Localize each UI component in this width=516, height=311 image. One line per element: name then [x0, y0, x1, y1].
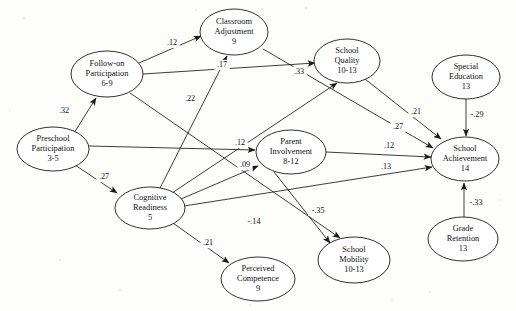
node-label-school-mobility-line1: School — [342, 245, 366, 254]
node-label-school-mobility-line3: 10-13 — [344, 265, 364, 274]
node-cognitive-readiness[interactable]: CognitiveReadiness5 — [115, 187, 185, 229]
node-label-perceived-competence-line1: Perceived — [241, 264, 275, 273]
edge-coefficient-cognitive-to-achievement: .13 — [381, 162, 391, 171]
edge-cognitive-to-parent — [181, 166, 258, 199]
node-classroom-adjustment[interactable]: ClassroomAdjustment9 — [200, 9, 268, 55]
node-label-cognitive-readiness-line2: Readiness — [133, 203, 167, 212]
node-school-achievement[interactable]: SchoolAchievement14 — [431, 137, 499, 181]
edge-coefficient-cognitive-to-perceived: .21 — [203, 238, 213, 247]
edge-coefficient-preschool-to-cognitive: .27 — [99, 172, 109, 181]
node-label-grade-retention-line3: 13 — [459, 244, 467, 253]
node-label-follow-on-participation-line1: Follow-on — [90, 59, 126, 68]
node-label-classroom-adjustment-line1: Classroom — [216, 17, 252, 26]
edge-parent-to-achievement — [326, 152, 431, 157]
node-label-cognitive-readiness-line3: 5 — [148, 213, 152, 222]
node-label-perceived-competence-line2: Competence — [237, 274, 279, 283]
edge-coefficient-schoolquality-to-achievement: .21 — [411, 107, 421, 116]
edge-cognitive-to-classroom — [160, 56, 227, 188]
node-label-parent-involvement-line3: 8-12 — [283, 157, 298, 166]
edge-coefficient-specialed-to-achievement: -.29 — [471, 110, 484, 119]
edge-coefficient-cognitive-to-classroom: .22 — [185, 94, 195, 103]
node-label-cognitive-readiness-line1: Cognitive — [133, 193, 166, 202]
node-label-preschool-participation-line3: 3-5 — [47, 154, 58, 163]
node-label-school-quality-line3: 10-13 — [337, 66, 357, 75]
node-label-preschool-participation-line2: Participation — [32, 144, 76, 153]
node-school-mobility[interactable]: SchoolMobility10-13 — [318, 237, 390, 283]
node-follow-on-participation[interactable]: Follow-onParticipation6-9 — [71, 51, 143, 97]
node-label-follow-on-participation-line3: 6-9 — [101, 79, 112, 88]
node-label-special-education-line3: 13 — [462, 82, 470, 91]
path-diagram-canvas: ClassroomAdjustment9Follow-onParticipati… — [0, 0, 516, 311]
node-label-school-mobility-line2: Mobility — [339, 255, 369, 264]
node-label-school-achievement-line2: Achievement — [443, 154, 488, 163]
node-label-grade-retention-line1: Grade — [453, 224, 474, 233]
edge-coefficient-followon-to-mobility: -.35 — [312, 206, 325, 215]
edge-coefficient-preschool-to-parent: .12 — [235, 138, 245, 147]
edge-coefficient-parent-to-mobility: -.14 — [248, 217, 261, 226]
node-label-preschool-participation-line1: Preschool — [36, 134, 70, 143]
edge-coefficient-retention-to-achievement: -.33 — [470, 198, 483, 207]
edge-preschool-to-parent — [89, 146, 255, 150]
edge-coefficient-cognitive-to-parent: .09 — [240, 160, 250, 169]
node-special-education[interactable]: SpecialEducation13 — [432, 55, 500, 99]
node-label-perceived-competence-line3: 9 — [256, 284, 260, 293]
node-label-special-education-line2: Education — [449, 72, 484, 81]
node-preschool-participation[interactable]: PreschoolParticipation3-5 — [17, 127, 89, 171]
node-label-follow-on-participation-line2: Participation — [86, 69, 130, 78]
node-parent-involvement[interactable]: ParentInvolvement8-12 — [256, 130, 326, 174]
node-label-parent-involvement-line2: Involvement — [270, 147, 313, 156]
node-label-grade-retention-line2: Retention — [447, 234, 480, 243]
node-label-school-achievement-line1: School — [453, 144, 477, 153]
path-diagram-page: ClassroomAdjustment9Follow-onParticipati… — [0, 0, 516, 311]
edge-coefficient-followon-to-schoolquality: .17 — [217, 60, 227, 69]
node-label-classroom-adjustment-line3: 9 — [232, 37, 236, 46]
edge-coefficient-classroom-to-achievement: .27 — [393, 122, 403, 131]
node-label-school-achievement-line3: 14 — [461, 164, 470, 173]
edge-coefficient-parent-to-achievement: .12 — [384, 141, 394, 150]
edge-coefficient-preschool-to-followon: .32 — [59, 106, 69, 115]
node-label-parent-involvement-line1: Parent — [280, 137, 302, 146]
node-school-quality[interactable]: SchoolQuality10-13 — [314, 39, 380, 83]
node-label-school-quality-line1: School — [335, 46, 359, 55]
node-label-special-education-line1: Special — [454, 62, 479, 71]
node-label-school-quality-line2: Quality — [334, 56, 360, 65]
node-grade-retention[interactable]: GradeRetention13 — [428, 217, 498, 261]
edge-coefficient-cognitive-to-schoolquality: .33 — [294, 67, 304, 76]
edge-coefficient-followon-to-classroom: .12 — [167, 38, 177, 47]
node-label-classroom-adjustment-line2: Adjustment — [214, 27, 254, 36]
node-layer: ClassroomAdjustment9Follow-onParticipati… — [17, 9, 500, 301]
edge-preschool-to-followon — [74, 98, 96, 133]
node-perceived-competence[interactable]: PerceivedCompetence9 — [221, 257, 295, 301]
edge-cognitive-to-achievement — [184, 167, 432, 206]
